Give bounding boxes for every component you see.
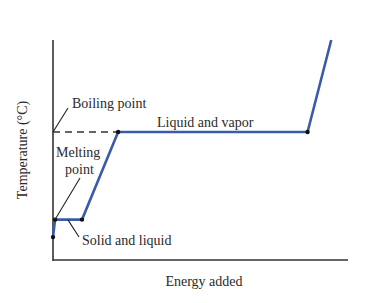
solid-and-liquid-leader bbox=[68, 220, 79, 237]
curve-marker bbox=[305, 130, 309, 134]
heating-curve-line bbox=[53, 40, 331, 237]
solid-and-liquid-label: Solid and liquid bbox=[82, 233, 171, 248]
boiling-point-leader bbox=[53, 108, 68, 132]
x-axis-label: Energy added bbox=[165, 274, 242, 289]
curve-marker bbox=[80, 217, 84, 221]
melting-point-label-line1: Melting bbox=[56, 145, 100, 160]
melting-point-label-line2: point bbox=[65, 162, 94, 177]
heating-curve-chart: Boiling point Melting point Solid and li… bbox=[0, 0, 372, 303]
curve-marker bbox=[51, 235, 55, 239]
liquid-and-vapor-label: Liquid and vapor bbox=[157, 115, 254, 130]
boiling-point-label: Boiling point bbox=[72, 96, 146, 111]
curve-marker bbox=[116, 130, 120, 134]
y-axis-label: Temperature (°C) bbox=[15, 101, 31, 200]
melting-point-leader bbox=[55, 178, 80, 220]
